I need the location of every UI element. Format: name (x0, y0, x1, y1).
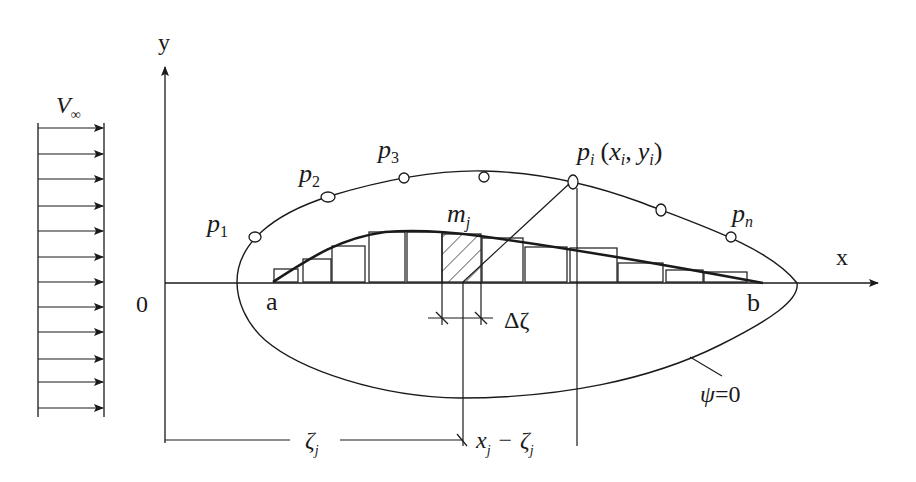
pn-label: pn (730, 199, 753, 230)
delta-zeta-label: Δζ (504, 307, 529, 333)
surface-point (479, 172, 489, 182)
surface-point-p1 (249, 232, 261, 242)
zeta-j-label: ζj (305, 427, 319, 458)
surface-point-pi (568, 175, 578, 189)
body-contour-psi-zero (237, 171, 797, 398)
source-element-mj (442, 234, 481, 282)
surface-point (656, 204, 666, 216)
freestream-label: V∞ (56, 92, 81, 122)
axes: y x 0 (136, 29, 878, 443)
psi-leader-line (690, 357, 722, 376)
delta-zeta-dimension (428, 312, 493, 324)
x-axis-label: x (836, 244, 848, 270)
influence-line (463, 184, 569, 282)
xj-minus-zetaj-label: xj−ζj (475, 427, 534, 458)
surface-points (249, 172, 736, 242)
p2-label: p2 (297, 159, 320, 190)
surface-point-p3 (399, 173, 409, 183)
p3-label: p3 (376, 135, 399, 166)
freestream-field: V∞ (38, 92, 104, 417)
y-axis-label: y (158, 29, 170, 55)
freestream-arrows (38, 128, 103, 408)
diagram-canvas: V∞ y x 0 ψ=0 (0, 0, 916, 482)
mj-label: mj (447, 199, 471, 232)
origin-label: 0 (136, 291, 148, 317)
surface-point-pn (726, 232, 736, 242)
surface-point-p2 (321, 192, 335, 202)
psi-label: ψ=0 (700, 381, 740, 407)
pi-label: pi(xi,yi) (575, 137, 662, 168)
leading-point-label: a (266, 287, 278, 316)
p1-label: p1 (205, 209, 228, 240)
camber-line (273, 231, 763, 283)
trailing-point-label: b (747, 288, 760, 317)
